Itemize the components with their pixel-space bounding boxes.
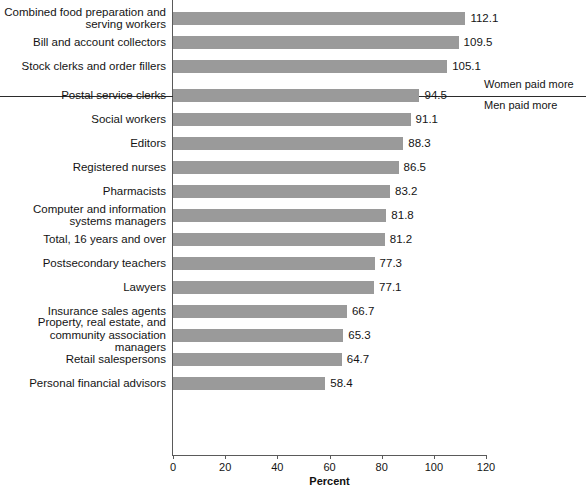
bar-value-label: 77.1	[374, 275, 401, 299]
x-axis-tick-label: 0	[153, 461, 193, 473]
bar	[173, 185, 390, 198]
x-axis-tick-label: 20	[205, 461, 245, 473]
bar-row: Combined food preparation and serving wo…	[0, 6, 586, 30]
bar	[173, 60, 447, 73]
bar-row: Property, real estate, and community ass…	[0, 323, 586, 347]
bar-category-label: Editors	[0, 131, 166, 155]
x-axis-tick-label: 100	[414, 461, 454, 473]
x-axis-tick-label: 80	[362, 461, 402, 473]
bar-category-label: Pharmacists	[0, 179, 166, 203]
bar	[173, 209, 386, 222]
bar-row: Editors88.3	[0, 131, 586, 155]
bar-row: Bill and account collectors109.5	[0, 30, 586, 54]
bar	[173, 377, 325, 390]
x-axis-tick-mark	[486, 455, 487, 459]
bar	[173, 353, 342, 366]
x-axis-tick-mark	[277, 455, 278, 459]
bar-value-label: 58.4	[325, 371, 352, 395]
bar-row: Personal financial advisors58.4	[0, 371, 586, 395]
bar	[173, 281, 374, 294]
bar-row: Registered nurses86.5	[0, 155, 586, 179]
annotation-men-paid-more: Men paid more	[484, 99, 557, 111]
x-axis-tick-label: 40	[257, 461, 297, 473]
bar-value-label: 112.1	[465, 6, 498, 30]
x-axis-tick-mark	[434, 455, 435, 459]
bar-category-label: Registered nurses	[0, 155, 166, 179]
bar-row: Stock clerks and order fillers105.1	[0, 54, 586, 78]
bar-value-label: 81.8	[386, 203, 413, 227]
bar	[173, 113, 411, 126]
bar-category-label: Total, 16 years and over	[0, 227, 166, 251]
bar-value-label: 77.3	[375, 251, 402, 275]
bar-value-label: 91.1	[411, 107, 438, 131]
bar-category-label: Social workers	[0, 107, 166, 131]
bar-row: Computer and information systems manager…	[0, 203, 586, 227]
bar-category-label: Bill and account collectors	[0, 30, 166, 54]
bar	[173, 36, 459, 49]
bar-value-label: 64.7	[342, 347, 369, 371]
bar-row: Total, 16 years and over81.2	[0, 227, 586, 251]
x-axis-tick-mark	[173, 455, 174, 459]
bar-value-label: 88.3	[403, 131, 430, 155]
bar-value-label: 81.2	[385, 227, 412, 251]
bar-category-label: Postal service clerks	[0, 83, 166, 107]
x-axis-tick-label: 60	[310, 461, 350, 473]
bar-value-label: 86.5	[399, 155, 426, 179]
bar	[173, 161, 399, 174]
bar-category-label: Combined food preparation and serving wo…	[0, 6, 166, 30]
bar	[173, 137, 403, 150]
x-axis-title: Percent	[173, 475, 486, 487]
bar	[173, 89, 419, 102]
x-axis-tick-mark	[382, 455, 383, 459]
bar-row: Lawyers77.1	[0, 275, 586, 299]
bar	[173, 329, 343, 342]
bar-category-label: Retail salespersons	[0, 347, 166, 371]
bar-category-label: Computer and information systems manager…	[0, 203, 166, 227]
bar-row: Postsecondary teachers77.3	[0, 251, 586, 275]
x-axis-tick-label: 120	[466, 461, 506, 473]
x-axis-tick-mark	[225, 455, 226, 459]
bar-chart: Combined food preparation and serving wo…	[0, 0, 586, 494]
bar	[173, 257, 375, 270]
bar-value-label: 94.5	[419, 83, 446, 107]
bar-row: Retail salespersons64.7	[0, 347, 586, 371]
bar-category-label: Lawyers	[0, 275, 166, 299]
bar	[173, 305, 347, 318]
bar	[173, 233, 385, 246]
x-axis-tick-mark	[330, 455, 331, 459]
bar-value-label: 83.2	[390, 179, 417, 203]
bar-value-label: 105.1	[447, 54, 481, 78]
bar-value-label: 109.5	[459, 30, 493, 54]
bar-value-label: 66.7	[347, 299, 374, 323]
bar-category-label: Personal financial advisors	[0, 371, 166, 395]
annotation-women-paid-more: Women paid more	[484, 78, 574, 90]
bar-row: Pharmacists83.2	[0, 179, 586, 203]
bar-category-label: Property, real estate, and community ass…	[0, 323, 166, 347]
bar	[173, 12, 465, 25]
bar-category-label: Postsecondary teachers	[0, 251, 166, 275]
bar-category-label: Stock clerks and order fillers	[0, 54, 166, 78]
bar-value-label: 65.3	[343, 323, 370, 347]
